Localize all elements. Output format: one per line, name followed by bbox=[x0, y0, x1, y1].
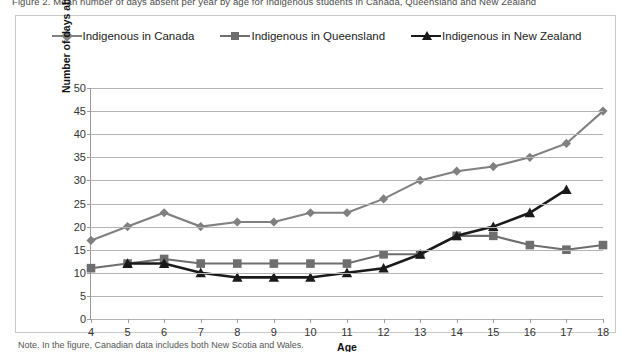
x-tickmark bbox=[384, 319, 385, 323]
data-point-diamond bbox=[86, 236, 95, 245]
x-tick-label: 4 bbox=[88, 326, 94, 338]
y-tick-label: 15 bbox=[74, 244, 86, 256]
x-tickmark bbox=[201, 319, 202, 323]
plot-wrapper: Number of days absent per year Age 05101… bbox=[68, 73, 606, 321]
y-gridline bbox=[91, 111, 603, 112]
data-point-triangle bbox=[561, 184, 571, 194]
series-diamond bbox=[86, 107, 607, 246]
x-tick-label: 7 bbox=[198, 326, 204, 338]
legend-label: Indigenous in Canada bbox=[83, 30, 195, 42]
y-gridline bbox=[91, 296, 603, 297]
y-tick-label: 45 bbox=[74, 105, 86, 117]
x-tick-label: 5 bbox=[125, 326, 131, 338]
data-point-diamond bbox=[342, 208, 351, 217]
x-tick-label: 12 bbox=[377, 326, 389, 338]
data-point-square bbox=[270, 259, 279, 268]
x-tickmark bbox=[310, 319, 311, 323]
y-gridline bbox=[91, 227, 603, 228]
x-tickmark bbox=[530, 319, 531, 323]
x-tickmark bbox=[420, 319, 421, 323]
data-point-diamond bbox=[306, 208, 315, 217]
y-tickmark bbox=[87, 134, 91, 135]
y-gridline bbox=[91, 180, 603, 181]
data-point-diamond bbox=[233, 217, 242, 226]
legend-swatch-triangle-icon bbox=[411, 30, 441, 42]
figure-caption-clipped: Figure 2. Mean number of days absent per… bbox=[12, 0, 622, 8]
y-gridline bbox=[91, 157, 603, 158]
y-tick-label: 5 bbox=[80, 290, 86, 302]
y-tickmark bbox=[87, 180, 91, 181]
y-tickmark bbox=[87, 296, 91, 297]
x-tickmark bbox=[237, 319, 238, 323]
y-tick-label: 40 bbox=[74, 128, 86, 140]
data-point-diamond bbox=[452, 167, 461, 176]
x-tickmark bbox=[603, 319, 604, 323]
data-point-diamond bbox=[269, 217, 278, 226]
x-tick-label: 10 bbox=[304, 326, 316, 338]
y-tickmark bbox=[87, 157, 91, 158]
figure-note: Note. In the figure, Canadian data inclu… bbox=[18, 340, 618, 352]
x-tick-label: 14 bbox=[451, 326, 463, 338]
x-tickmark bbox=[493, 319, 494, 323]
x-tick-label: 9 bbox=[271, 326, 277, 338]
y-tick-label: 10 bbox=[74, 267, 86, 279]
data-point-square bbox=[343, 259, 352, 268]
x-tickmark bbox=[566, 319, 567, 323]
legend-label: Indigenous in Queensland bbox=[251, 30, 385, 42]
y-gridline bbox=[91, 250, 603, 251]
chart-legend: Indigenous in CanadaIndigenous in Queens… bbox=[16, 30, 617, 42]
y-tickmark bbox=[87, 273, 91, 274]
data-point-square bbox=[306, 259, 315, 268]
y-tick-label: 25 bbox=[74, 198, 86, 210]
x-tick-label: 18 bbox=[597, 326, 609, 338]
y-axis-label: Number of days absent per year bbox=[60, 0, 72, 93]
x-tick-label: 13 bbox=[414, 326, 426, 338]
x-tick-label: 6 bbox=[161, 326, 167, 338]
x-tickmark bbox=[164, 319, 165, 323]
x-tickmark bbox=[91, 319, 92, 323]
x-tick-label: 17 bbox=[560, 326, 572, 338]
data-point-square bbox=[379, 250, 388, 259]
x-tickmark bbox=[457, 319, 458, 323]
data-point-diamond bbox=[379, 194, 388, 203]
x-tickmark bbox=[274, 319, 275, 323]
y-gridline bbox=[91, 273, 603, 274]
data-point-square bbox=[196, 259, 205, 268]
legend-item[interactable]: Indigenous in New Zealand bbox=[411, 30, 581, 42]
data-point-square bbox=[599, 241, 608, 250]
series-line bbox=[91, 111, 603, 240]
data-point-square bbox=[526, 241, 535, 250]
y-tickmark bbox=[87, 250, 91, 251]
data-point-square bbox=[87, 264, 96, 273]
y-tick-label: 0 bbox=[80, 313, 86, 325]
y-tick-label: 20 bbox=[74, 221, 86, 233]
legend-label: Indigenous in New Zealand bbox=[442, 30, 581, 42]
data-point-diamond bbox=[160, 208, 169, 217]
y-tick-label: 50 bbox=[74, 82, 86, 94]
data-point-square bbox=[489, 232, 498, 241]
chart-frame: Indigenous in CanadaIndigenous in Queens… bbox=[15, 15, 616, 333]
y-tick-label: 35 bbox=[74, 151, 86, 163]
legend-item[interactable]: Indigenous in Queensland bbox=[220, 30, 385, 42]
y-tickmark bbox=[87, 204, 91, 205]
y-gridline bbox=[91, 204, 603, 205]
figure-container: Figure 2. Mean number of days absent per… bbox=[0, 0, 631, 352]
y-gridline bbox=[91, 88, 603, 89]
x-tickmark bbox=[347, 319, 348, 323]
y-gridline bbox=[91, 134, 603, 135]
x-tick-label: 16 bbox=[524, 326, 536, 338]
x-tick-label: 11 bbox=[341, 326, 352, 338]
plot-area: Age 051015202530354045504567891011121314… bbox=[90, 88, 603, 320]
data-point-square bbox=[233, 259, 242, 268]
y-tickmark bbox=[87, 111, 91, 112]
x-tick-label: 15 bbox=[487, 326, 499, 338]
x-tickmark bbox=[128, 319, 129, 323]
y-tickmark bbox=[87, 227, 91, 228]
data-point-diamond bbox=[489, 162, 498, 171]
x-tick-label: 8 bbox=[234, 326, 240, 338]
y-tick-label: 30 bbox=[74, 174, 86, 186]
legend-swatch-square-icon bbox=[220, 30, 250, 42]
y-tickmark bbox=[87, 88, 91, 89]
legend-item[interactable]: Indigenous in Canada bbox=[52, 30, 195, 42]
